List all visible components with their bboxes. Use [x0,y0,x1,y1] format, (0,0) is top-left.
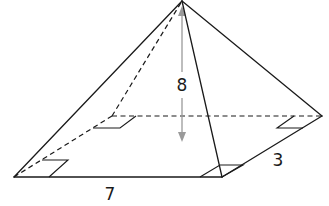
right-angle-markers [42,116,303,177]
right-angle-back-right [277,116,303,128]
height-indicator [178,6,186,142]
width-label: 3 [273,150,284,170]
lateral-edge-back-right [182,1,322,116]
right-angle-back-left [93,116,136,128]
hidden-lateral-edge [112,1,182,116]
lateral-edge-front-right [182,1,222,177]
arrow-down-icon [178,132,186,142]
length-label: 7 [105,184,116,204]
lateral-edge-front-left [14,1,182,177]
right-angle-front-left [42,160,68,177]
rectangular-pyramid-diagram: 8 7 3 [0,0,329,206]
height-label: 8 [177,75,188,95]
